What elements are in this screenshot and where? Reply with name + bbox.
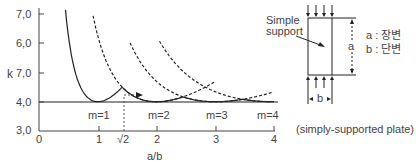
dim-a-label: a bbox=[348, 41, 354, 52]
curves bbox=[66, 10, 274, 102]
y-axis-label: k bbox=[7, 68, 13, 80]
x-ticks bbox=[99, 126, 274, 131]
envelope-curve bbox=[122, 87, 274, 102]
mode-label-m1: m=1 bbox=[88, 110, 110, 121]
y-tick-label: 3,0 bbox=[16, 125, 31, 136]
plate-caption: (simply-supported plate) bbox=[296, 124, 414, 135]
x-tick-label: 4 bbox=[271, 134, 277, 145]
legend-b: b : 단변 bbox=[366, 44, 401, 55]
y-tick-label: 7,0 bbox=[16, 9, 31, 20]
x-tick-label: 2 bbox=[154, 134, 160, 145]
sqrt2-marker bbox=[124, 95, 138, 131]
buckling-chart bbox=[0, 0, 416, 166]
curve-m3 bbox=[130, 43, 274, 102]
dim-b-label: b bbox=[317, 93, 323, 104]
mode-label-m2: m=2 bbox=[148, 110, 170, 121]
x-tick-label: 0 bbox=[36, 134, 42, 145]
y-tick-label: 4,0 bbox=[16, 97, 31, 108]
bottom-load-arrows bbox=[308, 78, 332, 90]
top-load-arrows bbox=[308, 5, 332, 16]
x-tick-label: √2 bbox=[117, 134, 129, 145]
curve-m4 bbox=[160, 41, 274, 101]
plate bbox=[308, 18, 332, 75]
curve-m1 bbox=[66, 10, 122, 102]
y-tick-label: 6,0 bbox=[16, 38, 31, 49]
legend-a: a : 장변 bbox=[366, 30, 401, 41]
curve-m2 bbox=[93, 16, 215, 102]
mode-label-m3: m=3 bbox=[206, 110, 228, 121]
x-axis-label: a/b bbox=[147, 151, 162, 162]
plate-diagram bbox=[296, 5, 356, 104]
y-ticks bbox=[39, 14, 44, 102]
x-tick-label: 3 bbox=[213, 134, 219, 145]
x-tick-label: 1 bbox=[96, 134, 102, 145]
y-tick-label: 7,0 bbox=[16, 68, 31, 79]
arrow-icon bbox=[136, 92, 143, 98]
mode-label-m4: m=4 bbox=[257, 110, 279, 121]
support-label: support bbox=[266, 26, 303, 37]
